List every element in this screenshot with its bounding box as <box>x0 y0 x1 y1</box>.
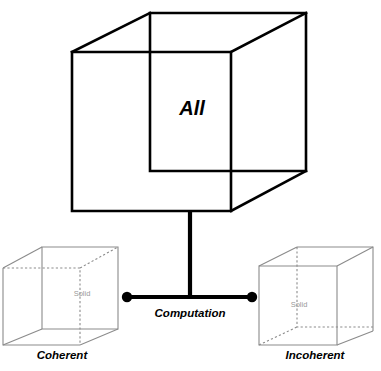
diagram-canvas: All Computation Solid Coheren <box>0 0 381 371</box>
node-incoherent-cube: Solid Incoherent <box>259 247 373 361</box>
node-coherent-cube: Solid Coherent <box>3 247 118 361</box>
all-cube-edge-tr <box>231 13 306 52</box>
coherent-label: Coherent <box>37 349 89 361</box>
incoherent-label: Incoherent <box>286 349 346 361</box>
incoherent-cube-edge-br <box>337 331 373 345</box>
incoherent-cube-back-face-hidden <box>297 247 373 327</box>
incoherent-inner-label: Solid <box>291 300 308 309</box>
all-cube-front-face <box>72 52 231 211</box>
incoherent-cube-edge-tr <box>337 247 373 266</box>
computation-label: Computation <box>155 307 226 319</box>
computation-endpoint-right-dot <box>247 292 257 302</box>
all-cube-edge-tl <box>72 13 150 52</box>
node-all-cube: All <box>72 13 306 211</box>
concept-cube-diagram: All Computation Solid Coheren <box>0 0 381 371</box>
coherent-inner-label: Solid <box>74 289 91 298</box>
coherent-cube-edge-br <box>80 329 118 345</box>
coherent-cube-edge-bl <box>3 329 42 345</box>
all-cube-back-face <box>150 13 306 171</box>
incoherent-cube-back-face-visible <box>297 247 373 331</box>
all-cube-edge-br <box>231 171 306 211</box>
coherent-cube-edge-tl <box>3 247 42 268</box>
computation-endpoint-left-dot <box>122 292 132 302</box>
incoherent-cube-edge-hidden <box>259 327 297 345</box>
incoherent-cube-edge-tl <box>259 247 297 266</box>
computation-edge: Computation <box>122 292 257 319</box>
all-label: All <box>178 97 205 119</box>
coherent-cube-edge-hidden <box>80 247 118 268</box>
